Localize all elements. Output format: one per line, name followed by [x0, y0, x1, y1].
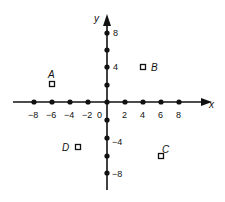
- x-tick-labels: −8 −6 −4 −2 0 2 4 6 8: [28, 110, 181, 120]
- point-marker-icon: [76, 145, 81, 150]
- y-axis-arrow-icon: [103, 14, 111, 26]
- point-C: C: [159, 144, 171, 159]
- point-label: B: [151, 62, 158, 73]
- coordinate-plane: x y −8 −6 −4 −2 0 2 4 6 8: [0, 0, 225, 202]
- x-tick-label: 2: [122, 110, 127, 120]
- y-tick-label: −8: [112, 169, 122, 179]
- point-A: A: [47, 69, 55, 87]
- point-label: D: [62, 142, 69, 153]
- point-B: B: [141, 62, 159, 73]
- x-axis-label: x: [208, 99, 215, 110]
- x-tick-label: −4: [64, 110, 74, 120]
- point-label: C: [162, 144, 170, 155]
- y-tick-label: −4: [112, 137, 122, 147]
- x-tick-label: 6: [158, 110, 163, 120]
- origin-label: 0: [97, 110, 102, 120]
- x-tick-label: −6: [46, 110, 56, 120]
- x-tick-label: 8: [176, 110, 181, 120]
- point-marker-icon: [50, 82, 55, 87]
- point-D: D: [62, 142, 81, 153]
- x-axis-dots: [31, 99, 181, 104]
- x-tick-label: −8: [28, 110, 38, 120]
- point-marker-icon: [141, 65, 146, 70]
- y-tick-label: 4: [113, 62, 118, 72]
- x-tick-label: 4: [140, 110, 145, 120]
- x-tick-label: −2: [82, 110, 92, 120]
- y-tick-label: 8: [113, 28, 118, 38]
- point-label: A: [47, 69, 55, 80]
- y-tick-labels: 8 4 −4 −8: [112, 28, 122, 179]
- y-axis-label: y: [93, 13, 100, 24]
